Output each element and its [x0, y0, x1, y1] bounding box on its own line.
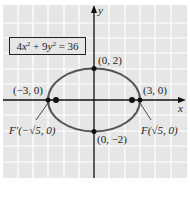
equation-plus-term: + 9	[30, 40, 47, 52]
ellipse-diagram: y x (−3, 0) (3, 0) (0, 2) (0, −2) F′(−√5…	[0, 0, 190, 212]
y-axis-label: y	[97, 4, 103, 16]
bottom-vertex-dot	[92, 129, 97, 134]
top-vertex-dot	[92, 66, 97, 71]
bottom-vertex-label: (0, −2)	[97, 133, 127, 146]
left-focus-label: F′(−√5, 0)	[8, 124, 56, 137]
right-vertex-dot	[138, 98, 143, 103]
left-focus-dot	[53, 97, 59, 103]
equation-rhs: = 36	[56, 40, 79, 52]
equation-box: 4x2 + 9y2 = 36	[9, 37, 86, 55]
right-focus-label: F(√5, 0)	[140, 124, 178, 137]
right-focus-dot	[129, 97, 135, 103]
x-axis-label: x	[177, 102, 183, 114]
right-vertex-label: (3, 0)	[143, 84, 167, 97]
top-vertex-label: (0, 2)	[98, 54, 122, 67]
left-vertex-label: (−3, 0)	[13, 84, 43, 97]
left-vertex-dot	[46, 98, 51, 103]
